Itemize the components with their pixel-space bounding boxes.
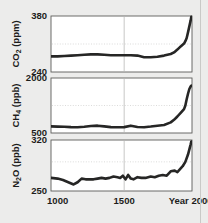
page-edge-divider (200, 0, 201, 223)
ytick-label-co2-0: 380 (31, 10, 47, 21)
xtick-label-1: 1500 (114, 195, 135, 206)
yaxis-title-n2o: N2O (ppb) (10, 143, 22, 188)
ytick-label-n2o-0: 320 (31, 134, 47, 145)
ytick-label-n2o-1: 250 (31, 185, 47, 196)
yaxis-title-co2: CO2 (ppm) (10, 20, 22, 67)
ytick-label-ch4-0: 2000 (26, 72, 47, 83)
panel-frame-co2 (51, 16, 192, 72)
greenhouse-gas-chart: 380240CO2 (ppm)2000500CH4 (ppb)320250N2O… (0, 0, 208, 223)
xtick-label-0: 1000 (47, 195, 68, 206)
panel-frame-ch4 (51, 78, 192, 133)
yaxis-title-ch4: CH4 (ppb) (10, 83, 22, 127)
xaxis-tick-labels: 10001500Year 2000 (47, 195, 208, 206)
greenhouse-gas-figure: 380240CO2 (ppm)2000500CH4 (ppb)320250N2O… (0, 0, 208, 223)
panel-n2o: 320250N2O (ppb) (10, 134, 192, 196)
panel-ch4: 2000500CH4 (ppb) (10, 72, 192, 138)
xtick-label-2: Year 2000 (169, 195, 208, 206)
panel-co2: 380240CO2 (ppm) (10, 10, 192, 77)
